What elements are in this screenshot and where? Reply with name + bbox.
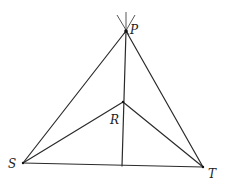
- vertex-R-dot: [122, 101, 124, 103]
- vertex-P-dot: [124, 29, 128, 33]
- geometry-diagram: P R S T: [0, 0, 227, 185]
- label-S: S: [8, 157, 16, 171]
- label-P: P: [129, 23, 139, 37]
- segment-PS: [23, 31, 126, 163]
- vertex-S-dot: [22, 162, 24, 164]
- segment-SR: [23, 102, 123, 163]
- label-R: R: [109, 113, 119, 127]
- segment-RT: [123, 102, 203, 167]
- segment-PT: [126, 31, 203, 167]
- segment-ST: [23, 163, 203, 167]
- vertex-T-dot: [202, 166, 204, 168]
- segment-P-foot: [122, 31, 126, 166]
- label-T: T: [208, 167, 217, 181]
